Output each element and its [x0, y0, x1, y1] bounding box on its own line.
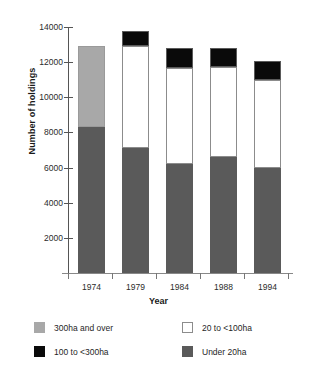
legend-item: 100 to <300ha — [34, 346, 109, 357]
x-tick-label: 1979 — [126, 282, 145, 292]
x-tick-mark — [288, 273, 289, 279]
y-tick-label: 14000 — [39, 22, 63, 32]
bar-segment — [210, 48, 237, 67]
bar-segment — [166, 48, 193, 68]
plot-area: 1400012000100008000600040002000 19741979… — [68, 20, 293, 273]
y-tick-label: 8000 — [44, 127, 63, 137]
white-swatch — [182, 322, 193, 333]
bar-segment — [122, 148, 149, 273]
bar-segment — [254, 80, 281, 167]
bar-1994 — [254, 61, 281, 273]
legend-item: 20 to <100ha — [182, 322, 252, 333]
y-tick-mark — [64, 132, 73, 133]
y-tick-mark — [64, 238, 73, 239]
y-tick-mark — [64, 62, 73, 63]
bar-segment — [122, 46, 149, 147]
x-tick-label: 1994 — [258, 282, 277, 292]
bar-1974 — [78, 46, 105, 273]
x-tick-label: 1984 — [170, 282, 189, 292]
y-tick-label: 6000 — [44, 163, 63, 173]
bar-segment — [166, 164, 193, 273]
legend-label: Under 20ha — [202, 347, 246, 357]
x-tick-mark — [68, 273, 69, 279]
bar-1988 — [210, 48, 237, 273]
legend-label: 300ha and over — [54, 323, 113, 333]
y-tick-mark — [64, 168, 73, 169]
bar-1979 — [122, 31, 149, 273]
x-tick-mark — [244, 273, 245, 279]
darkgray-swatch — [182, 346, 193, 357]
y-tick-label: 10000 — [39, 92, 63, 102]
bar-segment — [254, 168, 281, 273]
legend-label: 20 to <100ha — [202, 323, 252, 333]
bar-segment — [254, 61, 281, 80]
x-axis-title: Year — [0, 296, 317, 306]
x-tick-mark — [200, 273, 201, 279]
y-tick-mark — [64, 97, 73, 98]
y-axis-title: Number of holdings — [27, 31, 37, 191]
gray-swatch — [34, 322, 45, 333]
x-tick-mark — [112, 273, 113, 279]
black-swatch — [34, 346, 45, 357]
bar-segment — [122, 31, 149, 47]
legend-label: 100 to <300ha — [54, 347, 109, 357]
y-tick-label: 4000 — [44, 198, 63, 208]
x-tick-label: 1988 — [214, 282, 233, 292]
x-tick-mark — [156, 273, 157, 279]
bar-segment — [210, 157, 237, 273]
bar-segment — [78, 46, 105, 126]
y-tick-mark — [64, 27, 73, 28]
bar-1984 — [166, 48, 193, 273]
y-tick-mark — [64, 203, 73, 204]
bar-segment — [166, 68, 193, 163]
y-tick-label: 12000 — [39, 57, 63, 67]
x-tick-label: 1974 — [82, 282, 101, 292]
chart-legend: 300ha and over100 to <300ha20 to <100haU… — [34, 322, 294, 368]
bar-segment — [78, 127, 105, 273]
x-axis-line — [62, 273, 293, 274]
y-tick-label: 2000 — [44, 233, 63, 243]
stacked-bar-chart: Number of holdings 140001200010000800060… — [0, 0, 317, 379]
bar-segment — [210, 67, 237, 156]
legend-item: 300ha and over — [34, 322, 113, 333]
legend-item: Under 20ha — [182, 346, 246, 357]
y-axis-line — [68, 27, 69, 273]
